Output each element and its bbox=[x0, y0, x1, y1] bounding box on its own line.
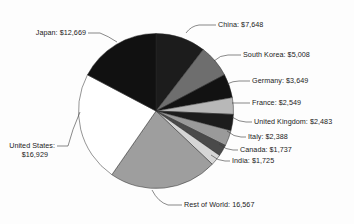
leader-line-united-states bbox=[57, 112, 80, 146]
pie-chart-svg: China: $7,648 South Korea: $5,008 German… bbox=[0, 0, 354, 224]
label-germany: Germany: $3,649 bbox=[252, 76, 308, 85]
label-italy: Italy: $2,388 bbox=[248, 132, 288, 141]
leader-line-japan bbox=[88, 33, 117, 42]
label-china: China: $7,648 bbox=[218, 20, 263, 29]
label-rest-of-world: Rest of World: 16,567 bbox=[184, 200, 254, 209]
leader-line-south-korea bbox=[214, 55, 241, 61]
label-united-kingdom: United Kingdom: $2,483 bbox=[254, 117, 332, 126]
leader-line-germany bbox=[227, 81, 250, 84]
pie-slices bbox=[79, 34, 234, 189]
pie-chart-figure: China: $7,648 South Korea: $5,008 German… bbox=[0, 0, 354, 224]
label-france: France: $2,549 bbox=[252, 98, 301, 107]
label-south-korea: South Korea: $5,008 bbox=[243, 50, 310, 59]
label-india: India: $1,725 bbox=[232, 156, 274, 165]
label-canada: Canada: $1,737 bbox=[240, 145, 292, 154]
label-japan: Japan: $12,669 bbox=[36, 28, 86, 37]
leader-line-united-kingdom bbox=[232, 117, 252, 122]
leader-line-rest-of-world bbox=[152, 190, 182, 205]
label-united-states-line2: $16,929 bbox=[22, 150, 48, 159]
leader-line-china bbox=[186, 25, 216, 33]
label-united-states-line1: United States: bbox=[9, 141, 55, 150]
